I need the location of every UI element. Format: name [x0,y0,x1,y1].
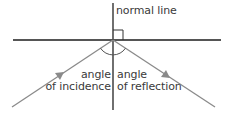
reflection-diagram: normal line angle of incidence angle of … [0,0,232,118]
normal-line-text: normal line [116,4,177,17]
normal-line-label: normal line [116,5,177,16]
angle-of-reflection-label: angle of reflection [117,69,182,93]
reflection-diagram-graphic [0,0,232,118]
reflection-label-line-2: of reflection [117,81,182,93]
right-angle-marker [113,30,123,40]
incidence-label-line-2: of incidence [45,81,111,93]
angle-of-incidence-label: angle of incidence [45,69,111,93]
